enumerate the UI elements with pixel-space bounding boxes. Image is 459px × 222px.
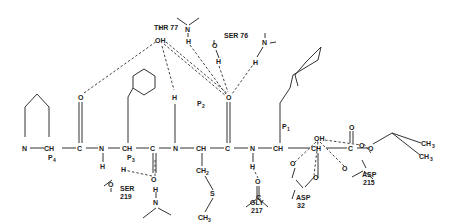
svg-text:H: H [100, 163, 105, 170]
svg-text:N: N [250, 145, 255, 152]
svg-text:H: H [253, 59, 258, 66]
svg-text:O: O [349, 124, 355, 131]
svg-text:C: C [348, 145, 353, 152]
svg-text:H: H [250, 163, 255, 170]
svg-text:O: O [78, 94, 84, 101]
svg-text:H: H [121, 166, 126, 173]
svg-text:GLY: GLY [250, 199, 264, 206]
svg-text:215: 215 [363, 179, 375, 186]
svg-text:O: O [151, 176, 157, 183]
svg-text:O: O [313, 174, 319, 181]
svg-text:S: S [210, 190, 215, 197]
svg-text:N: N [185, 26, 190, 33]
svg-text:C: C [150, 145, 155, 152]
svg-text:2: 2 [202, 103, 205, 109]
svg-text:CH: CH [198, 214, 208, 221]
pyrrolidine-ring [25, 94, 49, 137]
svg-text:H: H [172, 94, 177, 101]
svg-text:H: H [153, 186, 158, 193]
svg-text:2: 2 [206, 170, 209, 176]
svg-text:O: O [359, 142, 365, 149]
svg-text:ASP: ASP [296, 194, 311, 201]
svg-text:OH: OH [155, 37, 166, 44]
svg-text:SER 76: SER 76 [224, 32, 248, 39]
svg-text:O: O [255, 178, 261, 185]
svg-text:CH: CH [196, 145, 206, 152]
svg-text:O: O [226, 94, 232, 101]
backbone [30, 47, 421, 212]
svg-text:217: 217 [251, 207, 263, 214]
svg-text:3: 3 [208, 217, 211, 222]
svg-text:H: H [186, 38, 191, 45]
svg-text:ASP: ASP [362, 171, 377, 178]
svg-text:N: N [173, 145, 178, 152]
position-labels: P4 P3 P2 P1 [48, 100, 290, 163]
svg-text:32: 32 [297, 202, 305, 209]
residue-fragments [104, 18, 373, 218]
svg-text:C: C [77, 145, 82, 152]
svg-text:H: H [216, 58, 221, 65]
svg-text:O: O [108, 181, 114, 188]
svg-text:CH: CH [421, 140, 431, 147]
svg-text:CH: CH [311, 145, 321, 152]
svg-text:N: N [99, 145, 104, 152]
peptide-diagram: N CH C N CH C N CH C N CH CH C O O O O O… [0, 0, 459, 222]
residue-labels: THR 77 SER 76 SER219 GLY217 ASP32 ASP215 [120, 24, 377, 214]
svg-text:O: O [368, 145, 374, 152]
svg-text:CH: CH [196, 167, 206, 174]
svg-text:3: 3 [132, 157, 135, 163]
svg-text:CH: CH [122, 145, 132, 152]
svg-text:O: O [290, 160, 296, 167]
diagram-canvas: N CH C N CH C N CH C N CH CH C O O O O O… [0, 0, 459, 222]
svg-text:N: N [262, 39, 267, 46]
svg-text:O: O [342, 165, 348, 172]
svg-text:THR 77: THR 77 [154, 24, 178, 31]
svg-text:O: O [212, 42, 218, 49]
svg-text:CH: CH [273, 145, 283, 152]
svg-text:CH: CH [44, 145, 54, 152]
svg-text:3: 3 [430, 156, 433, 162]
svg-text:C: C [225, 145, 230, 152]
svg-text:1: 1 [287, 126, 290, 132]
svg-text:N: N [153, 199, 158, 206]
svg-text:N: N [22, 145, 27, 152]
svg-text:SER: SER [120, 185, 134, 192]
atom-labels: N CH C N CH C N CH C N CH CH C O O O O O… [22, 26, 435, 222]
svg-text:4: 4 [53, 157, 56, 163]
svg-text:OH: OH [314, 135, 325, 142]
svg-text:CH: CH [419, 153, 429, 160]
svg-text:3: 3 [432, 143, 435, 149]
svg-text:219: 219 [120, 193, 132, 200]
